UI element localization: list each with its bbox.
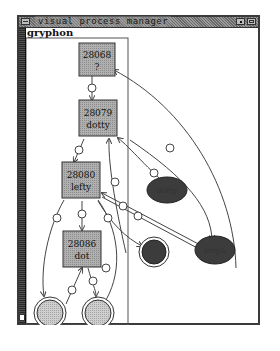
process-node-28068[interactable]: 28068 ? (79, 43, 115, 76)
maximize-button[interactable] (247, 18, 256, 25)
process-manager-window: visual process manager gryphon (17, 15, 260, 325)
process-graph: 28068 ? 28079 dotty 28080 lefty 28086 do… (26, 28, 258, 325)
process-node-28086[interactable]: 28086 dot (63, 231, 101, 267)
external-node-circle[interactable] (139, 237, 169, 267)
vertical-scrollbar[interactable] (19, 28, 26, 323)
graph-canvas[interactable]: gryphon (26, 28, 258, 323)
svg-text:steph: steph (204, 246, 226, 255)
window-title: visual process manager (35, 16, 171, 27)
svg-text:28080: 28080 (67, 170, 96, 180)
svg-text:28068: 28068 (83, 50, 112, 60)
external-node-steph[interactable]: steph (195, 236, 235, 264)
svg-text:28086: 28086 (68, 239, 97, 249)
svg-text:dot: dot (75, 251, 90, 261)
process-node-28079[interactable]: 28079 dotty (79, 100, 117, 136)
process-node-28080[interactable]: 28080 lefty (62, 162, 100, 198)
file-node-1[interactable] (34, 297, 66, 325)
svg-text:lefty: lefty (71, 182, 92, 192)
svg-text:?: ? (95, 62, 100, 72)
svg-text:28079: 28079 (84, 108, 113, 118)
svg-text:dotty: dotty (157, 186, 178, 195)
scrollbar-thumb[interactable] (19, 314, 25, 321)
external-node-dotty[interactable]: dotty (147, 177, 187, 203)
file-node-2[interactable] (82, 297, 114, 325)
minimize-button[interactable] (236, 18, 245, 25)
svg-text:dotty: dotty (86, 120, 110, 130)
window-menu-button[interactable] (21, 18, 30, 25)
